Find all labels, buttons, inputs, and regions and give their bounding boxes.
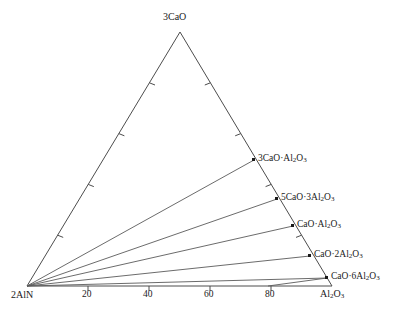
axis-label-60: 60	[204, 290, 214, 300]
vertex-label-2aln: 2AlN	[11, 290, 33, 300]
phase-point-c5a3	[275, 197, 278, 200]
vertex-label-3cao: 3CaO	[163, 12, 186, 22]
phase-point-c3a	[252, 158, 255, 161]
axis-label-20: 20	[82, 290, 92, 300]
tieline-2aln-to-ca6	[27, 278, 327, 286]
right-tick-3	[266, 184, 272, 186]
phase-point-ca6	[325, 276, 328, 279]
left-tick-4	[58, 235, 64, 237]
left-tick-3	[88, 184, 94, 186]
ternary-phase-diagram: 3CaO 2AlN Al2O3 20 40 60 80 3CaO·Al2O3 5…	[0, 0, 403, 325]
triangle-left-edge	[27, 32, 180, 286]
tieline-2aln-to-ca	[27, 226, 293, 286]
left-tick-2	[119, 134, 125, 136]
triangle-right-edge	[180, 32, 332, 286]
left-tick-1	[149, 83, 155, 85]
vertex-label-al2o3-text: Al2O3	[320, 288, 344, 299]
right-tick-2	[235, 134, 241, 136]
phase-point-ca2	[308, 254, 311, 257]
right-tick-4	[296, 235, 302, 237]
vertex-label-al2o3: Al2O3	[320, 289, 344, 300]
phase-label-c3a: 3CaO·Al2O3	[258, 154, 307, 164]
phase-label-c5a3: 5CaO·3Al2O3	[281, 193, 334, 203]
phase-label-ca6: CaO·6Al2O3	[331, 272, 380, 282]
axis-label-40: 40	[143, 290, 153, 300]
right-tick-1	[205, 83, 211, 85]
phase-label-ca: CaO·Al2O3	[297, 220, 341, 230]
axis-label-80: 80	[265, 290, 275, 300]
tieline-2aln-to-c3a	[27, 160, 254, 286]
phase-point-ca	[291, 224, 294, 227]
phase-label-ca2: CaO·2Al2O3	[314, 250, 363, 260]
